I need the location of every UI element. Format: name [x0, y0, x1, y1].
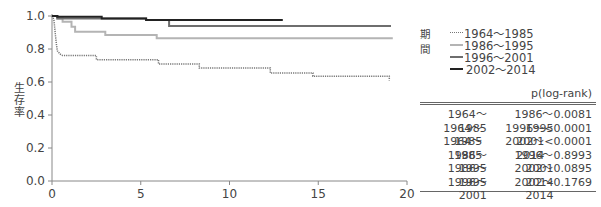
cell-period-b: 1986〜1995: [487, 108, 554, 122]
legend-swatch-light: [450, 44, 463, 46]
cell-p-value: 0.0895: [554, 162, 597, 176]
y-tick-label: 0.0: [26, 174, 45, 188]
cell-p-value: <0.0001: [544, 135, 596, 149]
cell-period-b: 1996〜2001: [482, 122, 544, 136]
y-tick-label: 0.2: [26, 141, 45, 155]
cell-p-value: 0.1769: [554, 176, 597, 190]
cell-period-b: 2002〜2014: [482, 135, 544, 149]
x-tick-label: 20: [399, 187, 414, 201]
cell-period-b: 1996〜2001: [487, 149, 554, 163]
cell-period-b: 2002〜2014: [487, 176, 554, 190]
cell-period-a: 1964〜1985: [420, 122, 482, 136]
table-row: 1996〜2001 2002〜2014 0.1769: [420, 176, 596, 190]
cell-period-a: 1964〜1985: [420, 135, 482, 149]
table-row: 1986〜1995 2002〜2014 0.0895: [420, 162, 596, 176]
cell-p-value: 0.0081: [554, 108, 597, 122]
x-tick-label: 5: [137, 187, 145, 201]
y-tick-label: 0.4: [26, 108, 45, 122]
table-row: 1986〜1995 1996〜2001 0.8993: [420, 149, 596, 163]
cell-period-a: 1964〜1985: [420, 108, 487, 122]
legend-title: 期間: [420, 26, 430, 56]
cell-period-a: 1986〜1995: [420, 162, 487, 176]
cell-period-a: 1986〜1995: [420, 149, 487, 163]
table-row: 1964〜1985 1996〜2001 <0.0001: [420, 122, 596, 136]
y-tick-label: 1.0: [26, 9, 45, 23]
cell-period-b: 2002〜2014: [487, 162, 554, 176]
cell-period-a: 1996〜2001: [420, 176, 487, 190]
table-row: 1964〜1985 2002〜2014 <0.0001: [420, 135, 596, 149]
table-header-p: p(log-rank): [420, 86, 596, 102]
x-tick-label: 10: [222, 187, 237, 201]
x-tick-label: 15: [311, 187, 326, 201]
table-row: 1964〜1985 1986〜1995 0.0081: [420, 108, 596, 122]
x-tick-label: 0: [48, 187, 56, 201]
y-tick-label: 0.8: [26, 42, 45, 56]
series-group: [52, 16, 393, 80]
y-axis-label: 生存率: [14, 81, 25, 119]
cell-p-value: <0.0001: [544, 122, 596, 136]
legend-swatch-medium: [450, 56, 463, 58]
table-double-rule: [420, 102, 596, 105]
legend-item-2002-2014: 2002〜2014: [450, 62, 536, 75]
legend-label: 2002〜2014: [466, 61, 536, 77]
cell-p-value: 0.8993: [554, 149, 597, 163]
legend-swatch-dark: [450, 68, 463, 70]
y-tick-label: 0.6: [26, 75, 45, 89]
logrank-table: p(log-rank) 1964〜1985 1986〜1995 0.0081 1…: [420, 86, 596, 192]
legend-swatch-dotted: [450, 32, 463, 33]
survival-chart: 0.00.20.40.60.81.005101520(年)生存率: [0, 0, 415, 207]
table-bottom-rule: [420, 191, 596, 192]
